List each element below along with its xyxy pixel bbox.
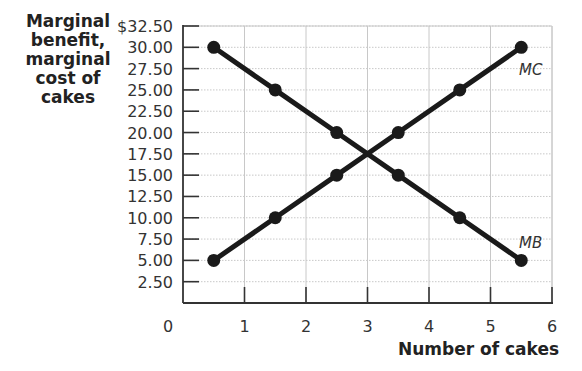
y-tick-label: 22.50 xyxy=(127,102,173,121)
y-tick-label: 5.00 xyxy=(137,251,173,270)
data-point-mb xyxy=(392,169,405,182)
y-tick-label: 7.50 xyxy=(137,230,173,249)
chart-plot: 2.505.007.5010.0012.5015.0017.5020.0022.… xyxy=(0,0,582,371)
data-point-mb xyxy=(269,83,282,96)
y-tick-label: 17.50 xyxy=(127,145,173,164)
x-tick-label: 4 xyxy=(424,317,434,336)
data-point-mc xyxy=(207,254,220,267)
data-point-mc xyxy=(330,169,343,182)
y-tick-label: 20.00 xyxy=(127,124,173,143)
x-tick-label: 5 xyxy=(485,317,495,336)
data-point-mc xyxy=(269,211,282,224)
mb-curve-label: MB xyxy=(519,234,542,252)
y-tick-label: 2.50 xyxy=(137,273,173,292)
mc-curve-label: MC xyxy=(519,61,543,79)
y-tick-label: 27.50 xyxy=(127,60,173,79)
grid-lines xyxy=(183,26,552,303)
y-tick-label: $32.50 xyxy=(117,17,173,36)
x-tick-label: 6 xyxy=(547,317,557,336)
data-point-mc xyxy=(392,126,405,139)
data-point-mb xyxy=(330,126,343,139)
x-tick-label: 1 xyxy=(239,317,249,336)
data-point-mb xyxy=(515,254,528,267)
y-tick-label: 15.00 xyxy=(127,166,173,185)
data-point-mb xyxy=(453,211,466,224)
y-tick-label: 25.00 xyxy=(127,81,173,100)
y-tick-label: 12.50 xyxy=(127,187,173,206)
y-tick-label: 10.00 xyxy=(127,209,173,228)
x-tick-label: 2 xyxy=(301,317,311,336)
x-tick-label: 3 xyxy=(362,317,372,336)
x-tick-label: 0 xyxy=(163,317,173,336)
x-axis-ticks: 0123456 xyxy=(163,287,557,336)
data-point-mc xyxy=(453,83,466,96)
y-tick-label: 30.00 xyxy=(127,38,173,57)
data-point-mc xyxy=(515,41,528,54)
y-axis-ticks: 2.505.007.5010.0012.5015.0017.5020.0022.… xyxy=(117,17,199,292)
data-point-mb xyxy=(207,41,220,54)
